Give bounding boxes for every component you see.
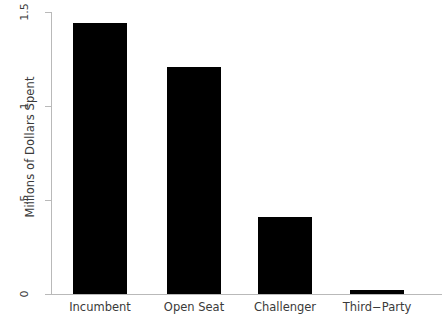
x-tick-label-third-party: Third−Party [317,299,437,315]
y-tick-mark-1.5 [45,12,52,13]
y-tick-label-0.5: .5 [18,183,32,217]
y-tick-label-0: 0 [18,277,32,311]
y-tick-label-1.5: 1.5 [18,0,32,29]
y-tick-label-1: 1 [18,89,32,123]
bar-challenger [258,217,312,294]
y-tick-mark-0 [45,294,52,295]
bar-incumbent [73,23,127,294]
y-tick-mark-1 [45,106,52,107]
plot-area [52,12,442,294]
x-axis-line [51,294,442,295]
y-axis-title: Millions of Dollars Spent [20,0,40,294]
bar-third-party [350,290,404,294]
bar-open-seat [167,67,221,294]
y-tick-mark-0.5 [45,200,52,201]
bar-chart-figure: Millions of Dollars Spent 1.5 1 .5 0 Inc… [0,0,446,323]
